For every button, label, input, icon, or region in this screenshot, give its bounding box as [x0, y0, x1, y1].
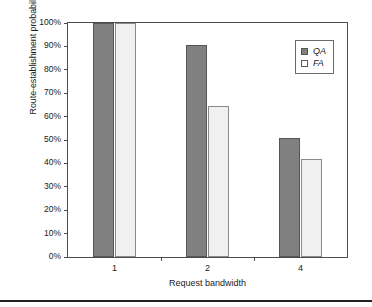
y-axis-title: Route-establishment probability: [28, 0, 38, 139]
legend-label-qa: QA: [313, 46, 326, 56]
legend-item-qa: QA: [301, 45, 326, 57]
y-tick-label: 70%: [44, 87, 61, 97]
chart-legend: QA FA: [295, 40, 334, 74]
bar-fa-2: [208, 106, 229, 257]
y-tick-label: 20%: [44, 204, 61, 214]
x-axis-separator-tick: [161, 257, 162, 261]
y-tick-mark: [64, 93, 68, 94]
y-tick-mark: [64, 257, 68, 258]
y-tick-mark: [64, 163, 68, 164]
y-tick-mark: [64, 23, 68, 24]
y-tick-label: 100%: [39, 17, 61, 27]
y-tick-mark: [64, 210, 68, 211]
x-axis-title: Request bandwidth: [67, 278, 348, 288]
y-tick-label: 0%: [49, 251, 61, 261]
x-tick-label: 1: [112, 263, 117, 273]
bar-fa-1: [115, 23, 136, 257]
x-axis-separator-tick: [254, 257, 255, 261]
y-tick-label: 40%: [44, 157, 61, 167]
y-tick-mark: [64, 46, 68, 47]
y-tick-label: 80%: [44, 64, 61, 74]
legend-label-fa: FA: [313, 58, 324, 68]
filled-gray-square-icon: [301, 48, 308, 55]
y-tick-label: 30%: [44, 181, 61, 191]
legend-item-fa: FA: [301, 57, 326, 69]
y-tick-mark: [64, 233, 68, 234]
x-tick-label: 2: [205, 263, 210, 273]
y-tick-mark: [64, 186, 68, 187]
bar-chart-figure: Route-establishment probability 0%10%20%…: [0, 0, 372, 307]
bar-qa-2: [186, 45, 207, 257]
x-tick-label: 4: [298, 263, 303, 273]
y-tick-label: 60%: [44, 111, 61, 121]
bar-fa-4: [301, 159, 322, 257]
bar-qa-4: [279, 138, 300, 257]
empty-white-square-icon: [301, 60, 308, 67]
y-tick-label: 50%: [44, 134, 61, 144]
y-tick-mark: [64, 116, 68, 117]
y-tick-label: 90%: [44, 40, 61, 50]
y-tick-label: 10%: [44, 228, 61, 238]
y-tick-mark: [64, 140, 68, 141]
page-bottom-rule: [0, 300, 372, 302]
y-tick-mark: [64, 69, 68, 70]
bar-qa-1: [93, 23, 114, 257]
